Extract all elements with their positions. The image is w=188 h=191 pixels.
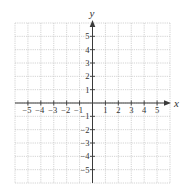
x-tick-label: −5 (22, 105, 31, 115)
axes (15, 20, 171, 183)
y-tick-label: −4 (80, 151, 90, 161)
y-tick-label: 1 (85, 85, 89, 95)
x-tick-label: 1 (103, 105, 107, 115)
y-tick-label: −1 (80, 111, 89, 121)
coordinate-plane: −5−4−3−2−112345−5−4−3−2−112345 x y (0, 0, 188, 191)
y-tick-label: 3 (85, 58, 89, 68)
x-tick-label: −4 (35, 105, 45, 115)
y-axis-arrow-icon (90, 20, 96, 27)
x-tick-label: 2 (116, 105, 120, 115)
y-tick-label: −2 (80, 125, 89, 135)
x-axis-title: x (173, 97, 179, 109)
x-tick-label: 4 (142, 105, 147, 115)
y-tick-label: −5 (80, 165, 89, 175)
y-axis-title: y (89, 7, 95, 19)
x-tick-label: −3 (48, 105, 57, 115)
y-tick-label: 4 (85, 45, 90, 55)
x-tick-label: −2 (61, 105, 70, 115)
y-tick-label: 2 (85, 71, 89, 81)
x-tick-label: 3 (129, 105, 133, 115)
y-tick-label: 5 (85, 31, 89, 41)
y-tick-label: −3 (80, 138, 89, 148)
x-tick-label: 5 (155, 105, 159, 115)
